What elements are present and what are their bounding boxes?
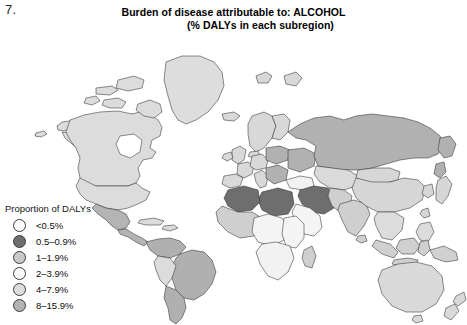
region-sulawesi (418, 240, 430, 256)
legend-label-4: 4–7.9% (36, 284, 68, 295)
region-aleutians (35, 131, 47, 137)
region-scandinavia (248, 112, 276, 152)
region-svalbard (256, 72, 272, 83)
region-hispaniola (162, 225, 178, 231)
legend-item-4: 4–7.9% (4, 281, 134, 297)
legend-heading: Proportion of DALYs (5, 203, 134, 214)
region-ellesmere-island (116, 76, 144, 91)
region-ukraine-belarus (288, 148, 316, 172)
region-east-africa (282, 216, 304, 248)
region-australia (378, 262, 444, 312)
region-north-africa-east (258, 188, 294, 216)
region-sumatra (372, 240, 398, 258)
region-sakhalin (434, 162, 446, 178)
legend-item-1: 0.5–0.9% (4, 233, 134, 249)
region-germany-alps (250, 154, 268, 170)
legend-swatch-icon-1 (13, 235, 26, 248)
region-cuba (138, 218, 164, 225)
region-andean (154, 256, 176, 286)
legend-item-0: <0.5% (4, 217, 134, 233)
legend-item-2: 1–1.9% (4, 249, 134, 265)
legend-item-3: 2–3.9% (4, 265, 134, 281)
region-arctic-islands (96, 86, 118, 95)
legend-label-2: 1–1.9% (36, 252, 68, 263)
legend-item-5: 8–15.9% (4, 297, 134, 313)
region-ireland (222, 152, 233, 161)
region-mainland-southeast-asia (374, 212, 404, 240)
legend-swatch-icon-0 (13, 219, 26, 232)
legend-label-5: 8–15.9% (36, 300, 74, 311)
region-victoria-island (102, 98, 126, 108)
region-balkans (266, 165, 288, 184)
legend-swatch-icon-2 (13, 251, 26, 264)
region-tasmania (412, 315, 423, 323)
region-novaya-zemlya (284, 72, 302, 86)
region-madagascar (302, 246, 316, 268)
legend-swatch-icon-3 (13, 267, 26, 280)
region-iceland (222, 112, 240, 121)
region-banks-island (84, 96, 100, 105)
legend-label-1: 0.5–0.9% (36, 236, 76, 247)
region-north-africa-west (224, 186, 260, 212)
region-canada (66, 111, 162, 186)
map-legend: Proportion of DALYs <0.5% 0.5–0.9% 1–1.9… (4, 203, 134, 313)
region-iberia (222, 174, 243, 188)
region-new-zealand-south (444, 304, 459, 320)
region-taiwan (420, 208, 430, 218)
region-greenland (164, 56, 224, 124)
title-line-1: Burden of disease attributable to: ALCOH… (0, 6, 467, 19)
region-japan (436, 176, 452, 204)
region-british-isles (232, 146, 246, 164)
region-poland-baltics (266, 146, 290, 164)
figure-container: 7. Burden of disease attributable to: AL… (0, 0, 467, 325)
region-southern-africa (256, 242, 294, 280)
region-sri-lanka (356, 235, 367, 243)
legend-label-3: 2–3.9% (36, 268, 68, 279)
region-borneo (396, 238, 420, 254)
legend-swatch-icon-4 (13, 283, 26, 296)
legend-label-0: <0.5% (36, 220, 63, 231)
legend-swatch-icon-5 (13, 299, 26, 312)
region-philippines (416, 222, 434, 242)
region-new-guinea (430, 246, 458, 262)
region-kamchatka (438, 136, 456, 158)
region-korea (422, 184, 434, 198)
